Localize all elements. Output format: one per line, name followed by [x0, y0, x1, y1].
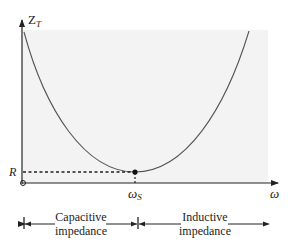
x-axis-label: ω: [270, 186, 279, 201]
capacitive-label-line2: impedance: [55, 224, 107, 238]
capacitive-label-line1: Capacitive: [55, 210, 106, 224]
resonance-point: [132, 169, 137, 174]
inductive-label-line2: impedance: [179, 224, 231, 238]
impedance-diagram: ZT ω R ωS Capacitive impedance Inductive…: [0, 0, 295, 252]
resonance-label: ωS: [128, 186, 142, 202]
r-label: R: [8, 165, 17, 179]
plot-background: [23, 30, 268, 183]
inductive-region-indicator: Inductive impedance: [138, 210, 270, 238]
inductive-label-line1: Inductive: [182, 210, 227, 224]
y-axis-label: ZT: [28, 12, 42, 29]
capacitive-region-indicator: Capacitive impedance: [24, 210, 137, 238]
